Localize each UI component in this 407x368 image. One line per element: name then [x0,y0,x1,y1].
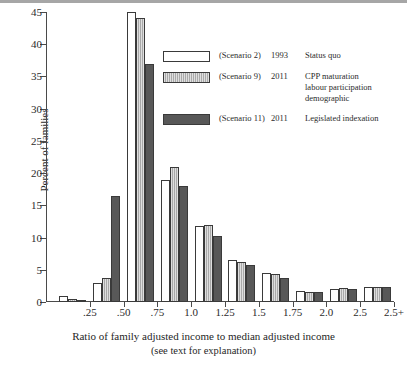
legend-row: (Scenario 11)2011Legislated indexation [163,113,395,125]
bar [237,262,246,302]
chart-legend: (Scenario 2)1993Status quo(Scenario 9)20… [163,50,395,134]
bar [373,287,382,302]
x-axis-subtitle: (see text for explanation) [0,344,407,357]
scan-artifact-bar [0,0,407,3]
y-axis-tick-label: 15 [31,200,42,211]
bar [170,167,179,302]
y-axis-tick-label: 25 [31,135,42,146]
x-axis-title-container: Ratio of family adjusted income to media… [0,330,407,357]
x-axis-tick-label: .75 [151,307,165,318]
bar [382,287,391,302]
x-axis-tick-label: 2.5+ [384,307,404,318]
bar [330,289,339,302]
bar [111,196,120,302]
bar [127,12,136,302]
legend-description: Status quo [305,50,395,61]
bar [102,278,111,302]
y-axis-tick-label: 40 [31,39,42,50]
bar [280,278,289,302]
bar [93,283,102,302]
bar [195,226,204,302]
bar [296,291,305,302]
legend-swatch [163,114,210,125]
bar [364,287,373,302]
x-axis-tick-label: 1.75 [283,307,302,318]
legend-description-line: demographic [305,93,395,104]
legend-description: CPP maturationlabour participationdemogr… [305,71,395,104]
legend-year-label: 2011 [271,113,305,123]
y-axis-tick-label: 0 [37,297,43,308]
y-axis-tick-label: 45 [31,7,42,18]
y-axis-tick-label: 35 [31,71,42,82]
legend-scenario-label: (Scenario 2) [210,50,271,60]
bar [77,300,86,302]
bar [68,299,77,302]
bar [314,292,323,302]
legend-description-line: Status quo [305,50,395,61]
bar [136,18,145,302]
bar [59,296,68,302]
legend-scenario-label: (Scenario 11) [210,113,271,123]
bar [348,289,357,302]
legend-description-line: CPP maturation [305,71,395,82]
legend-description: Legislated indexation [305,113,395,124]
y-axis-tick-label: 20 [31,168,42,179]
x-axis-title: Ratio of family adjusted income to media… [72,330,335,342]
y-axis-tick-label: 30 [31,103,42,114]
legend-description-line: labour participation [305,82,395,93]
legend-swatch [163,72,210,83]
x-axis-tick-label: 1.25 [215,307,234,318]
y-axis-title-container: Percent of families [0,95,14,205]
bar [213,236,222,302]
x-axis-tick-label: 1.0 [184,307,198,318]
legend-swatch [163,51,210,62]
bar [179,186,188,302]
x-axis-tick-label: 1.5 [252,307,266,318]
legend-row: (Scenario 2)1993Status quo [163,50,395,62]
y-axis-tick-label: 10 [31,232,42,243]
x-axis-tick-label: 2.0 [320,307,334,318]
bar [305,292,314,302]
bar [262,273,271,302]
bar [145,64,154,302]
x-axis-tick-label: .25 [83,307,97,318]
legend-year-label: 2011 [271,71,305,81]
x-axis-tick-label: .50 [117,307,131,318]
bar [204,225,213,302]
legend-row: (Scenario 9)2011CPP maturationlabour par… [163,71,395,104]
y-axis-tick-label: 5 [37,264,43,275]
bar [161,180,170,302]
bar [246,265,255,302]
bar [228,260,237,302]
legend-description-line: Legislated indexation [305,113,395,124]
legend-year-label: 1993 [271,50,305,60]
x-axis-tick-label: 2.5 [353,307,367,318]
bar-chart-figure: Percent of families 051015202530354045 .… [0,0,407,368]
bar [271,274,280,302]
legend-scenario-label: (Scenario 9) [210,71,271,81]
bar [339,288,348,302]
